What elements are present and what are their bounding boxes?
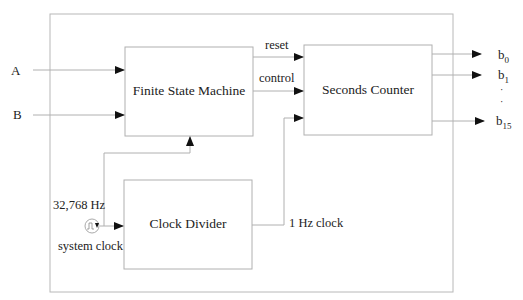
- input-b-label: B: [13, 107, 22, 123]
- output-b15-label: b15: [496, 113, 512, 129]
- output-b0-sub: 0: [505, 55, 510, 65]
- output-ellipsis-1: ·: [500, 84, 503, 95]
- control-label: control: [259, 71, 294, 86]
- output-b0-base: b: [498, 47, 505, 62]
- output-b1-sub: 1: [505, 75, 510, 85]
- fsm-label: Finite State Machine: [125, 83, 253, 99]
- frequency-label: 32,768 Hz: [53, 198, 105, 213]
- output-b15-base: b: [496, 113, 503, 128]
- output-b0-label: b0: [498, 47, 509, 63]
- system-clock-label: system clock: [58, 239, 123, 254]
- one-hz-clock-label: 1 Hz clock: [289, 216, 343, 231]
- output-b15-sub: 15: [503, 121, 512, 131]
- output-ellipsis-2: ·: [500, 96, 503, 107]
- output-b1-base: b: [498, 67, 505, 82]
- reset-label: reset: [265, 38, 289, 53]
- input-a-label: A: [11, 63, 20, 79]
- clock-divider-label: Clock Divider: [124, 216, 252, 232]
- seconds-counter-label: Seconds Counter: [304, 82, 432, 98]
- system-clock-icon: [85, 219, 99, 233]
- one-hz-clock-wire: [252, 118, 303, 225]
- diagram-canvas: [0, 0, 523, 300]
- output-b1-label: b1: [498, 67, 509, 83]
